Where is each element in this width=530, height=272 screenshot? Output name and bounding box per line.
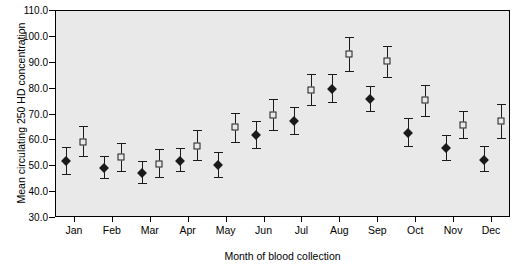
x-tick-label: Mar — [141, 224, 159, 236]
y-tick-label: 100.0 — [4, 30, 48, 41]
error-bar-cap — [269, 99, 278, 100]
error-bar-cap — [307, 105, 316, 106]
error-bar-cap — [345, 71, 354, 72]
error-bar-cap — [497, 138, 506, 139]
error-bar-cap — [497, 104, 506, 105]
error-bar-cap — [193, 130, 202, 131]
y-tick-label: 60.0 — [4, 134, 48, 145]
error-bar-cap — [193, 160, 202, 161]
error-bar-cap — [79, 126, 88, 127]
x-tick-label: Oct — [407, 224, 423, 236]
y-tick-label: 90.0 — [4, 56, 48, 67]
data-point-square — [118, 154, 125, 161]
x-tick-mark — [301, 217, 302, 222]
error-bar-cap — [269, 130, 278, 131]
y-tick-mark — [49, 88, 55, 89]
data-point-square — [270, 111, 277, 118]
y-tick-mark — [49, 114, 55, 115]
data-point-square — [421, 97, 428, 104]
error-bar-cap — [345, 37, 354, 38]
data-point-square — [497, 117, 504, 124]
data-point-square — [307, 86, 314, 93]
error-bar-cap — [231, 113, 240, 114]
y-tick-mark — [49, 217, 55, 218]
data-point-square — [459, 121, 466, 128]
error-bar-cap — [383, 46, 392, 47]
error-bar-cap — [459, 111, 468, 112]
series-group-open-square — [56, 11, 509, 216]
x-tick-label: Apr — [180, 224, 196, 236]
data-point-square — [156, 160, 163, 167]
y-tick-mark — [49, 62, 55, 63]
error-bar-cap — [231, 142, 240, 143]
x-tick-label: Nov — [444, 224, 463, 236]
x-tick-label: Jul — [295, 224, 308, 236]
error-bar-cap — [155, 149, 164, 150]
y-tick-mark — [49, 165, 55, 166]
x-tick-mark — [188, 217, 189, 222]
x-tick-label: May — [216, 224, 236, 236]
data-point-square — [232, 124, 239, 131]
error-bar-cap — [117, 143, 126, 144]
data-point-square — [80, 138, 87, 145]
chart-container: Mean circulating 250 HD concentration 30… — [0, 0, 530, 272]
y-tick-mark — [49, 191, 55, 192]
x-tick-mark — [226, 217, 227, 222]
error-bar-cap — [421, 116, 430, 117]
y-tick-label: 80.0 — [4, 82, 48, 93]
x-tick-label: Dec — [482, 224, 501, 236]
error-bar-cap — [155, 177, 164, 178]
data-point-square — [383, 58, 390, 65]
x-tick-label: Jan — [65, 224, 82, 236]
y-tick-label: 70.0 — [4, 108, 48, 119]
error-bar-cap — [117, 171, 126, 172]
x-tick-mark — [415, 217, 416, 222]
data-point-square — [345, 50, 352, 57]
x-tick-mark — [112, 217, 113, 222]
error-bar-cap — [459, 138, 468, 139]
y-tick-mark — [49, 36, 55, 37]
x-tick-label: Sep — [368, 224, 387, 236]
x-tick-label: Aug — [330, 224, 349, 236]
x-tick-mark — [491, 217, 492, 222]
x-tick-mark — [264, 217, 265, 222]
y-axis-ticks: 30.040.050.060.070.080.090.0100.0110.0 — [0, 10, 48, 217]
y-tick-label: 110.0 — [4, 5, 48, 16]
y-tick-label: 50.0 — [4, 160, 48, 171]
y-tick-label: 40.0 — [4, 186, 48, 197]
y-tick-mark — [49, 10, 55, 11]
error-bar-cap — [383, 77, 392, 78]
x-tick-label: Jun — [255, 224, 272, 236]
x-tick-mark — [453, 217, 454, 222]
error-bar-cap — [79, 156, 88, 157]
x-tick-mark — [377, 217, 378, 222]
error-bar-cap — [421, 85, 430, 86]
x-tick-mark — [74, 217, 75, 222]
x-tick-mark — [339, 217, 340, 222]
error-bar-cap — [307, 74, 316, 75]
data-point-square — [194, 142, 201, 149]
x-tick-mark — [150, 217, 151, 222]
x-axis-title: Month of blood collection — [55, 250, 510, 262]
y-tick-label: 30.0 — [4, 212, 48, 223]
plot-area — [55, 10, 510, 217]
x-tick-label: Feb — [103, 224, 121, 236]
y-tick-mark — [49, 139, 55, 140]
